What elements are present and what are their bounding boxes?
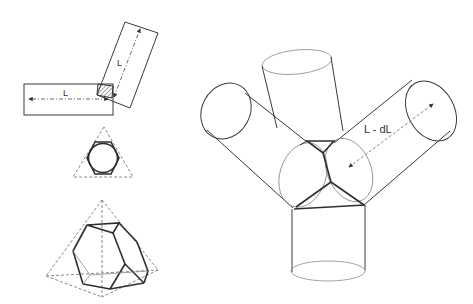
horizontal-length-label: L [63, 88, 68, 98]
strut-joint-diagram: L L [24, 22, 158, 115]
truncated-tetrahedron-diagram [46, 200, 158, 297]
dashed-tetrahedron [46, 200, 158, 297]
dashed-triangle [73, 127, 133, 177]
hatched-node [97, 84, 113, 98]
inscribed-circle [89, 144, 118, 173]
central-node [294, 141, 365, 209]
length-arrow [349, 104, 433, 167]
left-cylinder [191, 74, 335, 213]
triangle-hexagon-circle-diagram [73, 127, 133, 177]
bottom-cylinder [291, 205, 365, 281]
diagram-canvas: L L [0, 0, 473, 304]
hexagon [87, 142, 119, 174]
truncated-hidden-edges [73, 251, 148, 284]
top-cylinder [261, 46, 343, 131]
truncated-solid [73, 223, 148, 289]
inclined-length-label: L [117, 58, 122, 68]
cylinder-node-diagram: L - dL [191, 46, 467, 281]
length-label: L - dL [364, 123, 392, 135]
